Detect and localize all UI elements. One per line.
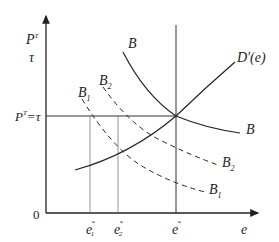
curve-B-label-right: B [246,122,255,137]
curve-B1 [82,99,205,192]
tick-e1-star: e*1 [86,219,95,238]
y-axis-label-P: PT [25,32,40,47]
curve-B [123,52,240,133]
price-level-label: PT=τ [14,109,42,124]
tick-e2-star: e*2 [114,219,123,238]
curve-D-prime-label: D'(e) [236,50,266,66]
tick-e-star: e* [172,219,181,237]
y-axis-label-tau: τ [29,50,35,65]
curve-B1-label-right: B1 [209,182,222,200]
origin-label: 0 [33,207,40,222]
curve-B2-label-top: B2 [99,73,112,91]
curve-B1-label-top: B1 [78,85,91,103]
curve-B-label: B [128,36,137,51]
diagram-canvas: PT τ PT=τ 0 B B D'(e) B2 B1 B2 B1 e*1 e*… [0,0,279,242]
curve-B2-label-right: B2 [222,155,235,173]
x-axis-label: e [241,222,247,237]
